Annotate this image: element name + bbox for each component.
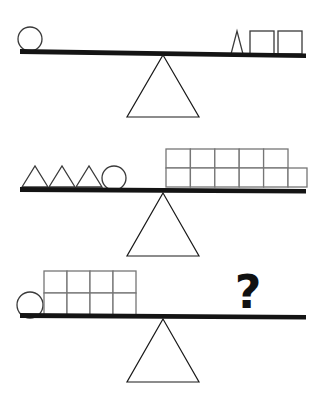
square-shape — [90, 293, 113, 315]
square-shape — [239, 168, 263, 187]
square-shape — [113, 271, 136, 293]
square-shape — [90, 271, 113, 293]
right-pan-2 — [166, 149, 307, 187]
square-shape — [67, 271, 90, 293]
fulcrum-triangle — [127, 55, 199, 117]
square-shape — [278, 31, 302, 54]
triangle-shape — [76, 166, 102, 187]
question-mark-icon: ? — [235, 265, 262, 319]
balance-puzzle: ? — [0, 0, 329, 404]
square-shape — [215, 149, 239, 168]
square-shape — [190, 168, 214, 187]
square-shape — [288, 168, 307, 187]
triangle-shape — [22, 166, 48, 187]
square-shape — [44, 271, 67, 293]
square-shape — [264, 168, 288, 187]
triangle-shape — [231, 31, 243, 54]
square-shape — [239, 149, 263, 168]
right-pan-3: ? — [235, 265, 262, 319]
square-shape — [113, 293, 136, 315]
triangle-shape — [49, 166, 75, 187]
square-shape — [67, 293, 90, 315]
right-pan-1 — [231, 31, 302, 54]
square-shape — [215, 168, 239, 187]
fulcrum-triangle — [127, 193, 199, 256]
left-pan-3 — [17, 271, 136, 318]
circle-shape — [102, 166, 126, 190]
fulcrum-triangle — [127, 319, 199, 382]
circle-shape — [18, 27, 42, 51]
square-shape — [44, 293, 67, 315]
square-shape — [264, 149, 288, 168]
balance-scale-3: ? — [0, 258, 329, 404]
left-pan-1 — [18, 27, 42, 51]
balance-scale-2 — [0, 136, 329, 258]
balance-scale-1 — [0, 0, 329, 136]
square-shape — [166, 168, 190, 187]
square-shape — [190, 149, 214, 168]
square-shape — [166, 149, 190, 168]
left-pan-2 — [22, 166, 126, 190]
square-shape — [250, 31, 274, 54]
